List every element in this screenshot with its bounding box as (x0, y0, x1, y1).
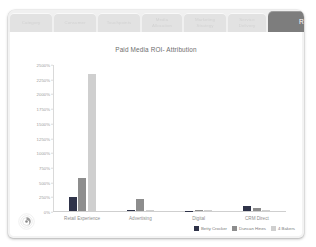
legend-swatch (232, 226, 237, 231)
tab-category[interactable]: Category (10, 13, 52, 32)
y-axis-tick-mark (51, 168, 53, 169)
tab-label: ServiceDelivery (230, 17, 264, 27)
x-axis-tick-label: Advertising (129, 216, 152, 221)
legend-swatch (194, 226, 199, 231)
legend-item[interactable]: 4 Bakers (271, 226, 295, 231)
y-axis-tick-label: 750% (39, 165, 50, 170)
bar[interactable] (262, 210, 270, 211)
circular-brand-watermark-icon (18, 213, 35, 230)
tab-media-allocation[interactable]: MediaAllocation (142, 13, 182, 32)
y-axis-tick-mark (51, 79, 53, 80)
y-axis-tick-mark (51, 212, 53, 213)
screenshot-root: CategoryConsumerTouchpointsMediaAllocati… (0, 0, 316, 247)
tab-marketing-strategy[interactable]: MarketingStrategy (184, 13, 226, 32)
bar[interactable] (78, 178, 86, 212)
x-axis-tick-label: Digital (192, 216, 205, 221)
y-axis-tick-mark (51, 182, 53, 183)
bar-group (185, 64, 212, 211)
report-canvas: Paid Media ROI- Attribution 2500%2250%20… (10, 32, 302, 236)
legend-item[interactable]: Duncan Hines (232, 226, 266, 231)
y-axis-line (53, 65, 54, 212)
bar[interactable] (185, 211, 193, 212)
tab-service-delivery[interactable]: ServiceDelivery (228, 13, 266, 32)
y-axis-tick-label: 0% (44, 210, 50, 215)
bar-group (127, 64, 154, 211)
tab-label: Touchpoints (100, 20, 138, 25)
y-axis-tick-mark (51, 109, 53, 110)
tab-label: Category (12, 20, 50, 25)
legend-label: 4 Bakers (278, 226, 295, 231)
tab-bar: CategoryConsumerTouchpointsMediaAllocati… (8, 10, 304, 32)
chart-title: Paid Media ROI- Attribution (10, 46, 302, 53)
bar[interactable] (136, 199, 144, 212)
app-window: CategoryConsumerTouchpointsMediaAllocati… (8, 10, 304, 238)
bar[interactable] (127, 210, 135, 211)
x-axis-line (53, 211, 286, 212)
bar-group (243, 64, 270, 211)
tab-label: MarketingStrategy (186, 17, 224, 27)
tab-label: Reports (270, 19, 304, 24)
y-axis-tick-label: 250% (39, 195, 50, 200)
y-axis-tick-mark (51, 94, 53, 95)
tab-consumer[interactable]: Consumer (54, 13, 96, 32)
bar[interactable] (195, 210, 203, 212)
tab-reports[interactable]: Reports (268, 11, 304, 32)
y-axis-tick-mark (51, 124, 53, 125)
legend-swatch (271, 226, 276, 231)
tab-touchpoints[interactable]: Touchpoints (98, 13, 140, 32)
x-axis-tick-label: Retail Experience (64, 216, 100, 221)
bar[interactable] (253, 208, 261, 212)
y-axis-tick-mark (51, 153, 53, 154)
y-axis-tick-mark (51, 197, 53, 198)
y-axis-tick-label: 2250% (37, 77, 50, 82)
y-axis-tick-label: 2500% (37, 63, 50, 68)
tab-label: Consumer (56, 20, 94, 25)
legend-item[interactable]: Betty Crocker (194, 226, 227, 231)
y-axis-tick-label: 1000% (37, 151, 50, 156)
y-axis-tick-mark (51, 138, 53, 139)
chart-legend: Betty CrockerDuncan Hines4 Bakers (194, 226, 295, 231)
tab-label: MediaAllocation (144, 17, 180, 27)
y-axis-tick-label: 500% (39, 180, 50, 185)
legend-label: Betty Crocker (201, 226, 227, 231)
legend-label: Duncan Hines (239, 226, 266, 231)
bar-group (69, 64, 96, 211)
y-axis-tick-label: 2000% (37, 92, 50, 97)
y-axis-tick-label: 1500% (37, 121, 50, 126)
y-axis-tick-label: 1250% (37, 136, 50, 141)
x-axis-tick-label: CRM Direct (245, 216, 269, 221)
bar-chart-plot: 2500%2250%2000%1750%1500%1250%1000%750%5… (53, 65, 286, 212)
y-axis-tick-mark (51, 65, 53, 66)
bar[interactable] (204, 210, 212, 211)
y-axis-tick-label: 1750% (37, 107, 50, 112)
bar[interactable] (69, 197, 77, 212)
bar[interactable] (88, 74, 96, 212)
bar[interactable] (146, 210, 154, 211)
bar[interactable] (243, 206, 251, 212)
